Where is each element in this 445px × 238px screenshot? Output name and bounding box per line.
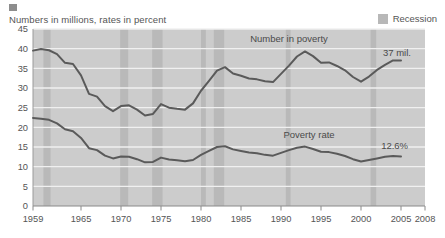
x-tick-label: 1959 (23, 214, 44, 224)
plot-area-wrapper: 051015202530354045 195919651970197519801… (0, 0, 445, 238)
y-tick-label: 15 (18, 142, 28, 152)
y-tick-label: 5 (23, 182, 28, 192)
x-axis-tick-labels: 1959196519701975198019851990199520002005… (23, 206, 436, 224)
plot-background (33, 29, 425, 206)
series-label-number-in-poverty: Number in poverty (250, 33, 328, 44)
y-tick-label: 40 (18, 44, 28, 54)
y-tick-label: 35 (18, 64, 28, 74)
recession-band (43, 29, 50, 206)
y-tick-label: 30 (18, 83, 28, 93)
plot-background-rect (33, 29, 425, 206)
y-tick-label: 20 (18, 123, 28, 133)
series-label-poverty-rate: Poverty rate (283, 129, 334, 140)
x-tick-label: 1980 (191, 214, 212, 224)
y-axis-tick-labels: 051015202530354045 (18, 24, 28, 211)
recession-band (120, 29, 128, 206)
recession-band (152, 29, 162, 206)
y-tick-label: 25 (18, 103, 28, 113)
endpoint-label-number-in-poverty: 37 mil. (383, 47, 411, 58)
recession-band (286, 29, 291, 206)
x-tick-label: 1965 (71, 214, 92, 224)
recession-band (201, 29, 206, 206)
y-tick-label: 10 (18, 162, 28, 172)
chart-svg: 051015202530354045 195919651970197519801… (0, 0, 445, 238)
x-tick-label: 1975 (151, 214, 172, 224)
x-tick-label: 1995 (311, 214, 332, 224)
recession-band (371, 29, 377, 206)
x-tick-label: 1970 (111, 214, 132, 224)
endpoint-label-poverty-rate: 12.6% (381, 140, 408, 151)
recession-band (214, 29, 224, 206)
x-tick-label: 1990 (271, 214, 292, 224)
y-tick-label: 45 (18, 24, 28, 34)
x-tick-label: 1985 (231, 214, 252, 224)
x-tick-label: 2000 (351, 214, 372, 224)
x-tick-label: 2005 (391, 214, 412, 224)
y-tick-label: 0 (23, 201, 28, 211)
x-tick-label: 2008 (415, 214, 436, 224)
poverty-chart-figure: Numbers in millions, rates in percent Re… (0, 0, 445, 238)
